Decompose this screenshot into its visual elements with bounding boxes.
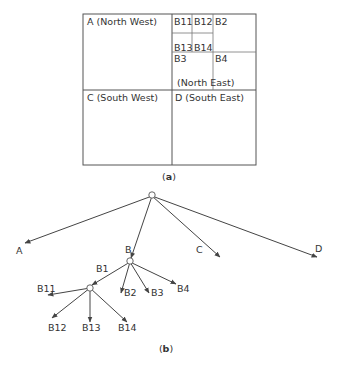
root-node: [149, 192, 155, 198]
tree-label-d: D: [315, 243, 322, 254]
tree-label-b3: B3: [151, 287, 164, 298]
quadtree-figure: A (North West) C (South West) D (South E…: [0, 0, 337, 368]
label-north-west: A (North West): [87, 16, 157, 27]
quadtree-diagram: A B C D B1 B2 B3 B4 B11 B12 B13 B14 (b): [16, 192, 322, 354]
tree-label-b2: B2: [124, 287, 137, 298]
tree-label-b11: B11: [37, 283, 56, 294]
label-south-west: C (South West): [87, 92, 158, 103]
edge-b1-b12: [52, 288, 90, 318]
label-cell-b13: B13: [174, 42, 193, 53]
label-cell-b14: B14: [194, 42, 213, 53]
tree-label-c: C: [196, 244, 203, 255]
label-cell-b2: B2: [215, 16, 228, 27]
edge-root-c: [152, 196, 220, 257]
label-cell-b12: B12: [194, 16, 213, 27]
label-cell-b3: B3: [174, 53, 187, 64]
label-south-east: D (South East): [175, 92, 244, 103]
node-b1: [87, 285, 93, 291]
caption-a: (a): [162, 171, 176, 182]
partition-diagram: A (North West) C (South West) D (South E…: [83, 14, 256, 182]
caption-b: (b): [159, 343, 173, 354]
tree-label-b12: B12: [48, 322, 67, 333]
node-b: [127, 258, 133, 264]
label-north-east: (North East): [177, 77, 235, 88]
edge-root-a: [25, 196, 152, 243]
tree-label-b14: B14: [118, 322, 137, 333]
tree-label-b4: B4: [177, 283, 190, 294]
label-cell-b4: B4: [215, 53, 228, 64]
edge-root-b: [131, 196, 152, 258]
tree-label-b13: B13: [82, 322, 101, 333]
label-cell-b11: B11: [174, 16, 193, 27]
tree-label-b: B: [125, 244, 132, 255]
tree-label-b1: B1: [96, 263, 109, 274]
edge-root-d: [152, 196, 317, 257]
tree-label-a: A: [16, 245, 23, 256]
